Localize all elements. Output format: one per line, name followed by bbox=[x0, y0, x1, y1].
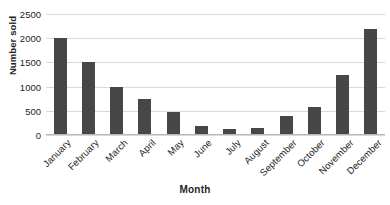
bar bbox=[54, 38, 67, 135]
bar-chart: Number sold 05001000150020002500 January… bbox=[0, 0, 390, 205]
y-axis-tick-label: 2000 bbox=[1, 33, 41, 44]
bar bbox=[280, 116, 293, 135]
x-axis-title: Month bbox=[0, 184, 390, 195]
bar bbox=[308, 107, 321, 135]
bar bbox=[138, 99, 151, 135]
bars-layer bbox=[46, 14, 385, 135]
y-axis-tick-label: 1500 bbox=[1, 57, 41, 68]
y-axis-tick-label: 0 bbox=[1, 130, 41, 141]
bar bbox=[110, 87, 123, 135]
plot-area: 05001000150020002500 bbox=[46, 14, 385, 135]
x-axis-tick-label: July bbox=[222, 137, 242, 157]
x-axis-tick-label: May bbox=[165, 137, 186, 158]
x-axis-tick-label: June bbox=[192, 137, 215, 160]
x-axis-line bbox=[46, 134, 385, 135]
bar bbox=[82, 62, 95, 135]
x-axis-tick-label: April bbox=[136, 137, 158, 159]
gridline bbox=[46, 135, 385, 136]
x-axis-tick-label: March bbox=[103, 137, 130, 164]
bar bbox=[364, 29, 377, 135]
y-axis-tick-label: 2500 bbox=[1, 9, 41, 20]
x-axis-tick-labels: JanuaryFebruaryMarchAprilMayJuneJulyAugu… bbox=[46, 137, 385, 185]
bar bbox=[167, 112, 180, 135]
y-axis-tick-label: 1000 bbox=[1, 81, 41, 92]
y-axis-tick-label: 500 bbox=[1, 105, 41, 116]
bar bbox=[336, 75, 349, 136]
